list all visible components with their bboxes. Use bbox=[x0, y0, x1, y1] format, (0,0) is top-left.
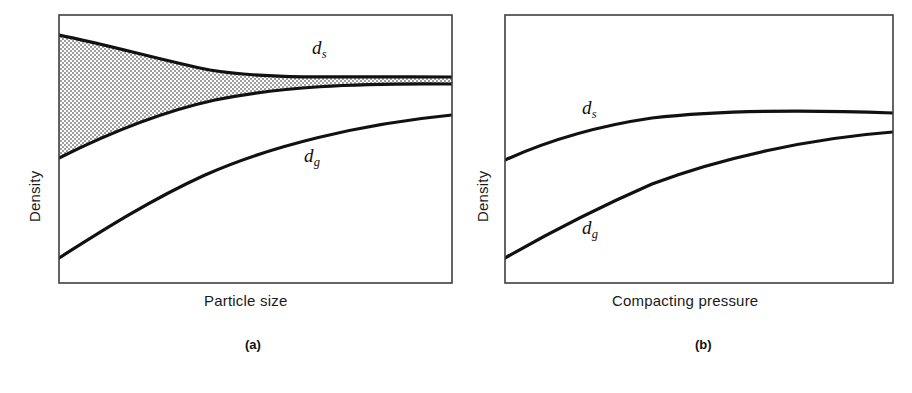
x-axis-title-panel-a: Particle size bbox=[204, 292, 287, 309]
panel-caption-a: (a) bbox=[245, 337, 261, 352]
y-axis-title-panel-b: Density bbox=[474, 171, 491, 222]
curve-label-ds-panel-a: ds bbox=[312, 38, 326, 57]
panel-b-plot bbox=[452, 0, 912, 300]
curve-ds-panel-b bbox=[505, 111, 893, 160]
curve-label-dg-panel-a: dg bbox=[304, 146, 320, 165]
shaded-density-band bbox=[59, 35, 452, 158]
panel-caption-b: (b) bbox=[695, 337, 712, 352]
figure-root: ds dg Density Particle size (a) bbox=[0, 0, 912, 393]
curve-dg-panel-a bbox=[59, 115, 452, 258]
panel-b: ds dg Density Compacting pressure (b) bbox=[452, 0, 912, 393]
y-axis-title-panel-a: Density bbox=[26, 171, 43, 222]
clipped-caption-strip bbox=[0, 374, 912, 393]
panel-a-plot bbox=[0, 0, 460, 300]
curve-label-dg-panel-b: dg bbox=[582, 218, 598, 237]
plot-frame-b bbox=[505, 15, 893, 283]
curve-label-ds-panel-b: ds bbox=[582, 98, 596, 117]
curve-dg-panel-b bbox=[505, 132, 893, 258]
panel-a: ds dg Density Particle size (a) bbox=[0, 0, 460, 393]
x-axis-title-panel-b: Compacting pressure bbox=[612, 292, 758, 309]
